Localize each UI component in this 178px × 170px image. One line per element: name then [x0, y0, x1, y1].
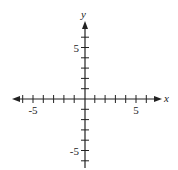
y-tick-label: 5: [74, 42, 80, 54]
coordinate-plane: x y -555-5: [0, 0, 178, 170]
x-axis-label: x: [163, 92, 169, 104]
x-tick-label: -5: [28, 104, 38, 116]
y-axis-label: y: [80, 8, 86, 20]
y-tick-label: -5: [70, 145, 80, 157]
x-axis-left-arrow-icon: [12, 96, 20, 102]
x-tick-label: 5: [133, 104, 139, 116]
x-axis-right-arrow-icon: [154, 96, 162, 102]
y-axis-up-arrow-icon: [82, 21, 88, 29]
